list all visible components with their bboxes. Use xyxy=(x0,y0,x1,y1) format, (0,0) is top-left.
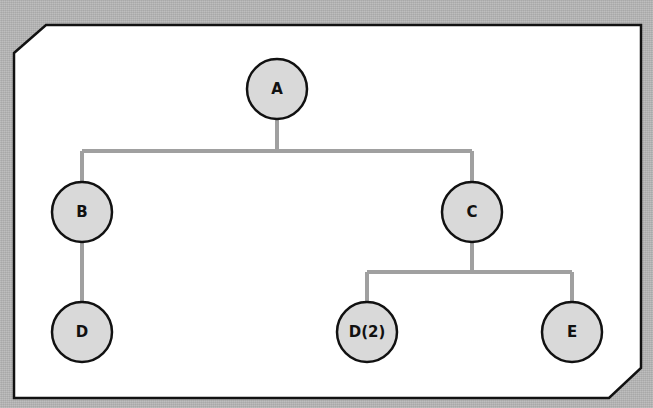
node-label: A xyxy=(271,80,283,98)
tree-node-e: E xyxy=(542,302,602,362)
node-label: C xyxy=(466,203,477,221)
tree-diagram: ABCDD(2)E xyxy=(0,0,653,408)
tree-node-c: C xyxy=(442,182,502,242)
node-label: B xyxy=(76,203,87,221)
tree-node-d: D xyxy=(52,302,112,362)
tree-node-d2: D(2) xyxy=(337,302,397,362)
node-label: D(2) xyxy=(349,323,386,341)
node-label: D xyxy=(76,323,88,341)
tree-node-b: B xyxy=(52,182,112,242)
tree-node-a: A xyxy=(247,59,307,119)
node-label: E xyxy=(567,323,577,341)
